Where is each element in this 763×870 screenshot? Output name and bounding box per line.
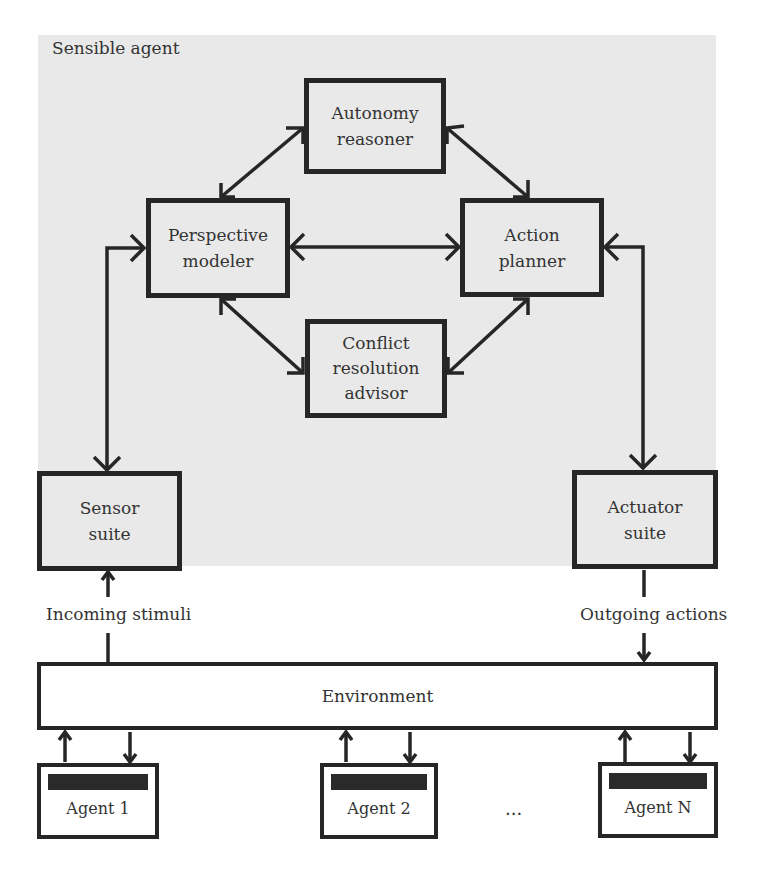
environment-label: Environment [322,686,434,706]
agent-n-box: Agent N [598,762,718,838]
sensible-agent-label: Sensible agent [52,38,179,58]
autonomy-reasoner-box: Autonomy reasoner [304,78,446,174]
perspective-modeler-label: Perspective modeler [168,222,268,274]
action-planner-label: Action planner [499,222,566,274]
actuator-suite-label: Actuator suite [608,494,683,546]
agent-2-label: Agent 2 [324,799,434,818]
conflict-resolution-advisor-box: Conflict resolution advisor [305,319,447,418]
conflict-resolution-advisor-label: Conflict resolution advisor [333,331,420,406]
sensor-suite-box: Sensor suite [37,471,182,571]
agent-1-header-bar [48,774,148,790]
agent-1-label: Agent 1 [41,799,155,818]
agent-n-header-bar [609,773,707,789]
sensor-suite-label: Sensor suite [80,495,140,547]
agent-2-header-bar [331,774,427,790]
autonomy-reasoner-label: Autonomy reasoner [331,100,418,152]
environment-box: Environment [37,662,718,730]
agent-2-box: Agent 2 [320,763,438,839]
perspective-modeler-box: Perspective modeler [146,198,290,298]
action-planner-box: Action planner [460,198,604,297]
more-agents-ellipsis: ... [505,798,522,819]
incoming-stimuli-label: Incoming stimuli [46,604,191,624]
outgoing-actions-label: Outgoing actions [580,604,727,624]
agent-1-box: Agent 1 [37,763,159,839]
agent-n-label: Agent N [602,798,714,817]
actuator-suite-box: Actuator suite [572,470,718,569]
